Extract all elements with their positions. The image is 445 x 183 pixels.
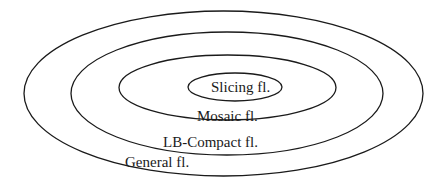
general-floorplan-label: General fl. [125, 154, 189, 170]
mosaic-floorplan-label: Mosaic fl. [197, 108, 258, 124]
slicing-floorplan-label: Slicing fl. [211, 79, 270, 95]
floorplan-hierarchy-diagram: Slicing fl. Mosaic fl. LB-Compact fl. Ge… [0, 0, 445, 183]
lb-compact-floorplan-label: LB-Compact fl. [163, 134, 258, 150]
